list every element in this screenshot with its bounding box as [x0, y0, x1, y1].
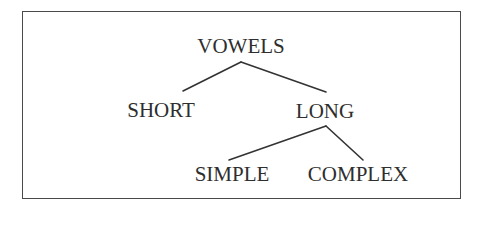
- node-simple: SIMPLE: [195, 164, 270, 185]
- edge-long-simple: [229, 126, 326, 160]
- node-complex: COMPLEX: [308, 164, 408, 185]
- edge-vowels-long: [241, 62, 326, 92]
- node-short: SHORT: [127, 100, 195, 121]
- edge-long-complex: [326, 126, 363, 160]
- edge-vowels-short: [183, 62, 241, 91]
- node-vowels: VOWELS: [197, 36, 285, 57]
- node-long: LONG: [296, 101, 354, 122]
